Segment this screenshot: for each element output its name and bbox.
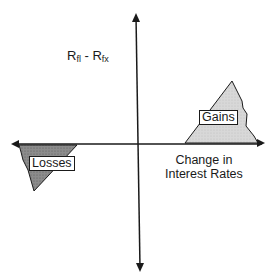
- y-axis: [136, 16, 140, 268]
- x-axis-label-line1: Change in: [165, 153, 243, 167]
- diagram-canvas: [0, 0, 274, 279]
- y-axis-top-arrow-icon: [132, 13, 140, 22]
- x-axis-label-line2: Interest Rates: [165, 167, 243, 181]
- x-axis-right-arrow-icon: [257, 139, 265, 147]
- gains-label: Gains: [199, 110, 238, 125]
- losses-label: Losses: [29, 156, 75, 171]
- y-axis-bottom-arrow-icon: [136, 263, 144, 272]
- x-axis-left-arrow-icon: [11, 140, 19, 148]
- y-axis-label: Rfl - Rfx: [67, 48, 109, 64]
- x-axis-label: Change in Interest Rates: [165, 153, 243, 181]
